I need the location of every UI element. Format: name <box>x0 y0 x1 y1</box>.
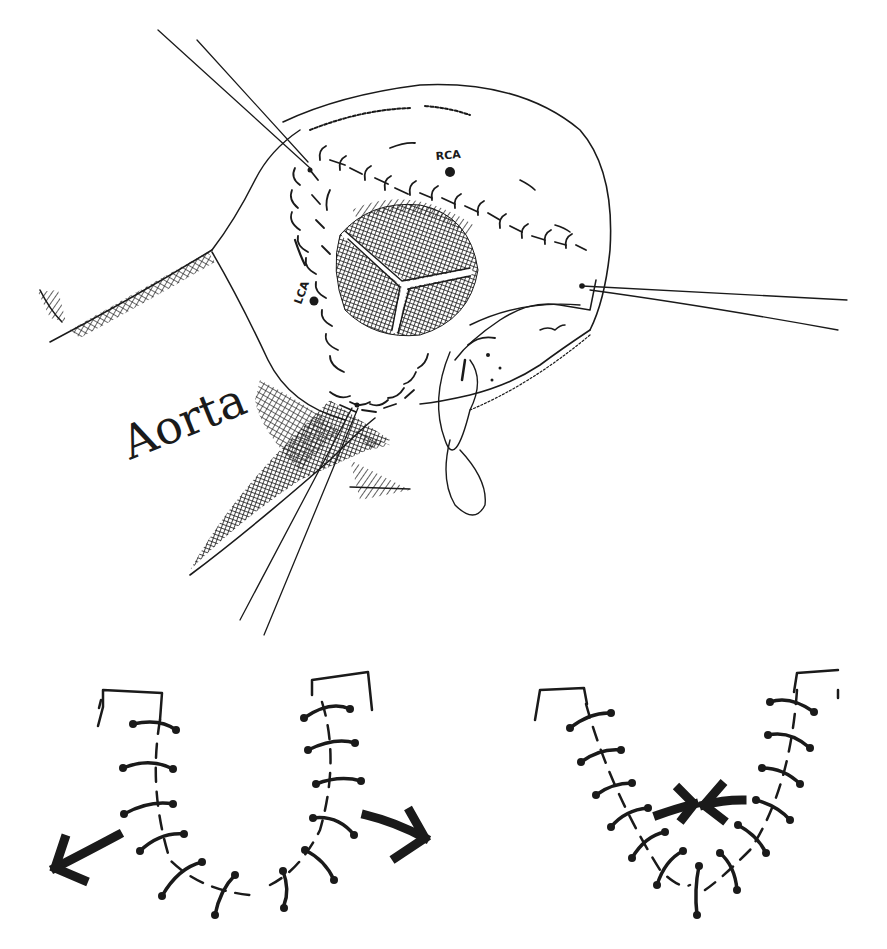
label-rca: RCA <box>435 148 462 163</box>
lower-left-panel <box>55 672 425 919</box>
figure-canvas: Aorta RCA LCA <box>0 0 887 949</box>
main-panel: Aorta RCA LCA <box>38 30 847 635</box>
arrow-right-inward-icon <box>704 782 742 822</box>
rca-ostium <box>445 167 455 177</box>
right-flap <box>468 304 590 410</box>
stay-suture-upper-left <box>158 30 313 173</box>
arrow-right-outward-icon <box>366 808 425 860</box>
arrow-left-outward-icon <box>55 835 118 882</box>
stay-suture-right <box>579 283 847 330</box>
suture-knots-left <box>119 720 288 919</box>
suture-line-bottom <box>330 354 428 412</box>
suture-loop <box>439 352 486 515</box>
left-vessel <box>38 130 345 420</box>
suture-bites-left <box>123 722 287 915</box>
label-aorta: Aorta <box>113 372 254 471</box>
label-lca: LCA <box>292 279 312 306</box>
surgical-illustration: Aorta RCA LCA <box>0 0 887 949</box>
aortic-valve <box>336 204 478 335</box>
suture-bites-v-right <box>720 700 814 890</box>
lower-right-panel <box>535 670 838 919</box>
lca-ostium <box>310 297 319 306</box>
suture-knots-right <box>300 705 365 884</box>
suture-bites-right <box>304 706 361 880</box>
arrow-left-inward-icon <box>658 786 694 822</box>
